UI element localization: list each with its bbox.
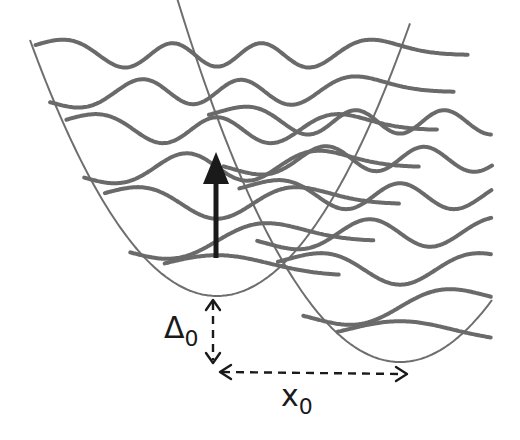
potential-wells-diagram [0, 0, 520, 440]
delta-label: Δ0 [164, 310, 199, 351]
displacement-label: x0 [281, 378, 313, 419]
ground-state-well-wavefunction [66, 114, 437, 143]
displacement-subscript: 0 [299, 394, 313, 419]
ground-state-well-wavefunction [84, 151, 419, 184]
ground-state-well-wavefunction [50, 76, 454, 107]
displacement-symbol: x [281, 378, 299, 413]
excited-state-well-wavefunction [239, 180, 491, 209]
excited-state-well-wavefunction [257, 218, 491, 249]
vibrational-wavefunctions [36, 40, 492, 338]
delta-symbol: Δ [164, 310, 185, 345]
ground-state-well-wavefunction [105, 187, 399, 219]
excited-state-well-wavefunction [278, 253, 491, 285]
excited-state-well-wavefunction [209, 107, 491, 135]
delta-subscript: 0 [185, 326, 199, 351]
delta-offset-arrow [206, 300, 220, 363]
ground-state-well-wavefunction [165, 255, 339, 274]
displacement-arrow [220, 365, 407, 381]
